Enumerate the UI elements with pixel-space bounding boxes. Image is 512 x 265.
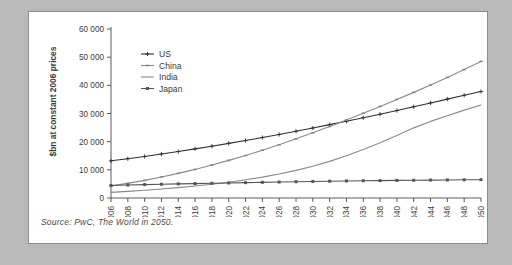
svg-text:2048: 2048 <box>460 206 469 217</box>
svg-text:2038: 2038 <box>376 206 385 217</box>
svg-text:2032: 2032 <box>326 206 335 217</box>
svg-text:2020: 2020 <box>225 206 234 217</box>
legend-item-china: China <box>141 61 182 71</box>
y-axis-title: $bn at constant 2006 prices <box>48 46 58 156</box>
legend-item-india: India <box>141 72 178 82</box>
svg-text:2030: 2030 <box>309 206 318 217</box>
svg-text:2042: 2042 <box>410 206 419 217</box>
svg-text:2050: 2050 <box>477 206 486 217</box>
chart-legend: USChinaIndiaJapan <box>141 49 183 93</box>
line-chart: $bn at constant 2006 prices 010 00020 00… <box>29 12 489 217</box>
y-axis-ticks: 010 00020 00030 00040 00050 00060 000 <box>79 25 111 203</box>
chart-plot-area: $bn at constant 2006 prices 010 00020 00… <box>29 12 489 217</box>
svg-text:20 000: 20 000 <box>79 138 104 147</box>
svg-text:2022: 2022 <box>242 206 251 217</box>
svg-text:2014: 2014 <box>174 206 183 217</box>
legend-item-us: US <box>141 49 171 59</box>
svg-text:2028: 2028 <box>292 206 301 217</box>
svg-text:40 000: 40 000 <box>79 81 104 90</box>
svg-text:50 000: 50 000 <box>79 53 104 62</box>
svg-text:India: India <box>159 72 178 82</box>
svg-text:$bn at constant 2006 prices: $bn at constant 2006 prices <box>48 46 58 156</box>
x-axis-ticks: 2006200820102012201420162018202020222024… <box>107 198 486 217</box>
svg-text:30 000: 30 000 <box>79 110 104 119</box>
svg-text:China: China <box>159 61 182 71</box>
svg-text:2008: 2008 <box>124 206 133 217</box>
figure-card: $bn at constant 2006 prices 010 00020 00… <box>28 11 488 244</box>
svg-text:2016: 2016 <box>191 206 200 217</box>
svg-text:Japan: Japan <box>159 84 183 94</box>
series-japan <box>110 178 483 187</box>
svg-text:2040: 2040 <box>393 206 402 217</box>
svg-text:2024: 2024 <box>258 206 267 217</box>
svg-text:2018: 2018 <box>208 206 217 217</box>
svg-text:2036: 2036 <box>359 206 368 217</box>
svg-text:US: US <box>159 49 171 59</box>
svg-text:0: 0 <box>99 194 104 203</box>
svg-text:2006: 2006 <box>107 206 116 217</box>
svg-text:2010: 2010 <box>141 206 150 217</box>
svg-text:2012: 2012 <box>157 206 166 217</box>
svg-text:2046: 2046 <box>443 206 452 217</box>
svg-text:2026: 2026 <box>275 206 284 217</box>
svg-text:2034: 2034 <box>342 206 351 217</box>
svg-text:2044: 2044 <box>427 206 436 217</box>
series-us <box>109 89 483 162</box>
svg-text:60 000: 60 000 <box>79 25 104 34</box>
source-note: Source: PwC, The World in 2050. <box>41 217 173 227</box>
legend-item-japan: Japan <box>141 84 183 94</box>
svg-text:10 000: 10 000 <box>79 166 104 175</box>
series-india <box>111 105 481 192</box>
